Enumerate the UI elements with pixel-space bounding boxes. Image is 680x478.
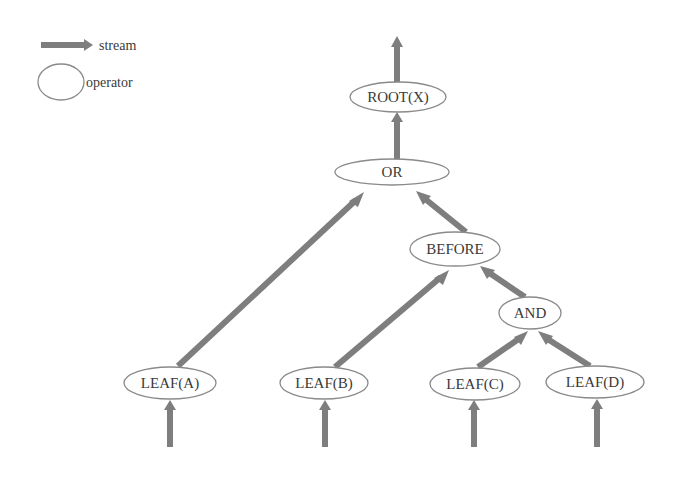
node-or-label: OR — [382, 164, 403, 180]
legend-operator-label: operator — [86, 75, 133, 90]
operator-tree-diagram: stream operator — [0, 0, 680, 478]
node-or: OR — [335, 159, 449, 185]
node-before-label: BEFORE — [426, 241, 484, 257]
node-leaf-a-label: LEAF(A) — [141, 375, 199, 392]
node-before: BEFORE — [410, 232, 500, 266]
legend-stream-label: stream — [99, 38, 136, 53]
legend-stream-arrowhead — [84, 39, 93, 51]
stream-leaf-a-to-or — [178, 200, 356, 366]
stream-leaf-b-to-before — [335, 277, 441, 367]
arrowhead-leaf-d — [591, 399, 603, 409]
stream-before-to-or — [424, 198, 466, 232]
node-leaf-b: LEAF(B) — [280, 367, 368, 399]
node-leaf-d: LEAF(D) — [546, 366, 644, 398]
legend-operator-ellipse — [38, 64, 84, 100]
arrowhead-output — [391, 36, 403, 47]
arrowhead-leaf-c — [468, 400, 480, 410]
node-leaf-d-label: LEAF(D) — [566, 374, 624, 391]
node-leaf-b-label: LEAF(B) — [295, 375, 353, 392]
arrowhead-root — [391, 112, 403, 122]
node-leaf-c: LEAF(C) — [430, 368, 520, 400]
node-leaf-a: LEAF(A) — [124, 367, 216, 399]
node-leaf-c-label: LEAF(C) — [446, 376, 504, 393]
legend: stream operator — [38, 38, 136, 100]
stream-leaf-d-to-and — [546, 338, 590, 366]
arrowhead-leaf-a — [164, 400, 176, 410]
node-root-label: ROOT(X) — [367, 89, 429, 106]
node-and: AND — [499, 297, 561, 329]
node-root: ROOT(X) — [350, 82, 446, 112]
node-and-label: AND — [514, 305, 547, 321]
stream-leaf-c-to-and — [478, 338, 520, 367]
stream-and-to-before — [488, 272, 525, 297]
arrowhead-leaf-b — [319, 400, 331, 410]
